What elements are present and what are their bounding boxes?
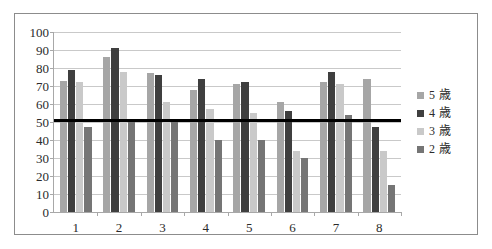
bar — [155, 75, 162, 212]
x-axis-tick-mark — [401, 212, 402, 216]
bar — [241, 82, 248, 212]
x-axis-tick-label: 7 — [333, 221, 340, 234]
bar — [301, 158, 308, 212]
x-axis-tick-mark — [228, 212, 229, 216]
y-axis-tick-label: 70 — [36, 80, 49, 93]
legend-item-label: 5 歳 — [429, 89, 452, 101]
bar — [328, 72, 335, 212]
bar — [76, 82, 83, 212]
x-axis-tick-label: 8 — [376, 221, 383, 234]
bar — [233, 84, 240, 212]
bar — [190, 90, 197, 212]
legend-swatch-icon — [417, 92, 424, 99]
chart-figure: 0102030405060708090100 12345678 5 歳4 歳3 … — [14, 13, 478, 235]
bar — [285, 111, 292, 212]
plot-area: 0102030405060708090100 12345678 — [53, 32, 401, 213]
x-axis-tick-mark — [314, 212, 315, 216]
x-axis-tick-mark — [184, 212, 185, 216]
x-axis-tick-mark — [358, 212, 359, 216]
bar — [60, 81, 67, 212]
chart-legend: 5 歳4 歳3 歳2 歳 — [417, 86, 475, 158]
bar — [206, 109, 213, 212]
y-axis-tick-label: 90 — [36, 44, 49, 57]
legend-swatch-icon — [417, 128, 424, 135]
legend-item[interactable]: 3 歳 — [417, 122, 475, 140]
x-axis-tick-label: 4 — [203, 221, 210, 234]
bar — [372, 127, 379, 212]
bar — [258, 140, 265, 212]
bar — [336, 84, 343, 212]
bar — [128, 120, 135, 212]
bar — [147, 73, 154, 212]
legend-item[interactable]: 4 歳 — [417, 104, 475, 122]
y-axis-tick-label: 60 — [36, 98, 49, 111]
threshold-line — [54, 119, 401, 122]
bar — [388, 185, 395, 212]
legend-item-label: 2 歳 — [429, 143, 452, 155]
bar — [320, 82, 327, 212]
x-axis-tick-label: 1 — [72, 221, 79, 234]
bar — [198, 79, 205, 212]
bar — [120, 72, 127, 212]
bar — [380, 151, 387, 212]
legend-item-label: 3 歳 — [429, 125, 452, 137]
y-axis-tick-label: 80 — [36, 62, 49, 75]
legend-swatch-icon — [417, 110, 424, 117]
x-axis-tick-mark — [97, 212, 98, 216]
bar — [250, 113, 257, 212]
x-axis-tick-label: 6 — [289, 221, 296, 234]
y-axis-tick-label: 40 — [36, 134, 49, 147]
bar — [293, 151, 300, 212]
x-axis-tick-mark — [271, 212, 272, 216]
bar — [171, 120, 178, 212]
y-axis-tick-mark — [50, 212, 54, 213]
x-axis-tick-label: 5 — [246, 221, 253, 234]
bar — [111, 48, 118, 212]
bar — [345, 115, 352, 212]
y-axis-tick-label: 100 — [30, 26, 50, 39]
x-axis-tick-label: 2 — [116, 221, 123, 234]
x-axis-tick-label: 3 — [159, 221, 166, 234]
legend-item[interactable]: 2 歳 — [417, 140, 475, 158]
bar — [68, 70, 75, 212]
y-axis-tick-label: 20 — [36, 170, 49, 183]
bar — [363, 79, 370, 212]
x-axis-tick-mark — [141, 212, 142, 216]
legend-item-label: 4 歳 — [429, 107, 452, 119]
bar — [103, 57, 110, 212]
bar — [215, 140, 222, 212]
y-axis-tick-label: 50 — [36, 116, 49, 129]
y-axis-tick-label: 30 — [36, 152, 49, 165]
y-axis-tick-label: 10 — [36, 188, 49, 201]
legend-item[interactable]: 5 歳 — [417, 86, 475, 104]
y-axis-tick-label: 0 — [43, 206, 50, 219]
bar — [84, 127, 91, 212]
legend-swatch-icon — [417, 146, 424, 153]
